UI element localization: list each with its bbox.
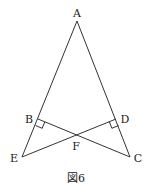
point-label-A: A [72,7,82,20]
figure-caption: 図6 [67,172,85,185]
point-label-B: B [25,113,33,126]
right-angle-mark-B [36,122,45,129]
geometry-figure: A B D E C F 図6 [0,0,152,192]
segment-BC [38,119,130,157]
segment-DE [22,119,116,157]
point-label-F: F [72,140,80,153]
segment-AC [77,21,130,157]
segment-AE [22,21,77,157]
point-label-C: C [134,152,142,165]
point-label-E: E [10,152,18,165]
point-label-D: D [121,113,130,126]
